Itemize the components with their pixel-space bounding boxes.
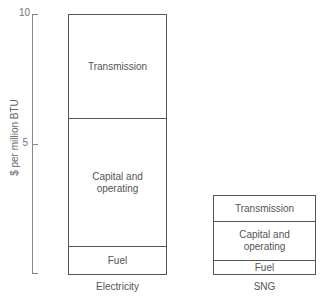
segment-label: Fuel: [108, 255, 127, 267]
x-label-electricity: Electricity: [68, 281, 167, 292]
y-tick-label-10: 10: [2, 7, 30, 18]
segment-electricity-fuel: Fuel: [69, 246, 166, 274]
segment-electricity-transmission: Transmission: [69, 15, 166, 118]
bar-electricity: Transmission Capital and operating Fuel: [68, 14, 167, 275]
y-tick-5: [32, 144, 38, 145]
segment-label: Fuel: [255, 262, 274, 274]
bar-sng: Transmission Capital and operating Fuel: [213, 195, 316, 275]
x-label-sng: SNG: [213, 281, 316, 292]
segment-label: Capital and operating: [86, 171, 150, 195]
y-tick-10: [32, 14, 38, 15]
y-tick-0: [32, 273, 38, 274]
segment-sng-fuel: Fuel: [214, 260, 315, 274]
segment-sng-transmission: Transmission: [214, 196, 315, 221]
segment-label: Transmission: [235, 203, 294, 215]
segment-label: Capital and operating: [233, 229, 297, 253]
segment-label: Transmission: [88, 61, 147, 73]
segment-sng-capital: Capital and operating: [214, 221, 315, 260]
y-axis-label: $ per million BTU: [9, 88, 20, 188]
segment-electricity-capital: Capital and operating: [69, 118, 166, 246]
